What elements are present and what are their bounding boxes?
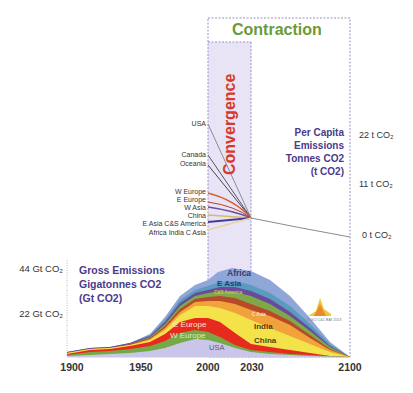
x-tick-2000: 2000 <box>196 361 219 373</box>
x-tick-2100: 2100 <box>338 361 361 373</box>
area-label-c-asia: C Asia <box>252 312 266 317</box>
right-axis-11: 11 t CO₂ <box>359 179 393 189</box>
right-axis-22: 22 t CO₂ <box>359 130 394 140</box>
area-label-usa: USA <box>209 343 224 352</box>
left-axis-22: 22 Gt CO₂ <box>5 308 63 319</box>
x-tick-1950: 1950 <box>129 361 152 373</box>
per-capita-title: Per Capita Emissions Tonnes CO2 (t CO2) <box>280 126 344 178</box>
left-axis-44: 44 Gt CO₂ <box>5 263 63 274</box>
right-axis-0: 0 t CO₂ <box>362 230 392 240</box>
area-label-w-europe: W Europe <box>170 331 206 340</box>
area-label-e-europe: E Europe <box>173 320 206 329</box>
area-label-china: China <box>254 336 276 345</box>
area-label-india: India <box>254 322 273 331</box>
country-label-china: China <box>86 212 206 219</box>
country-label-e-europe: E Europe <box>86 196 206 203</box>
contraction-title: Contraction <box>232 21 322 39</box>
country-label-africa-india-c-asia: Africa India C Asia <box>86 229 206 236</box>
country-label-canada: Canada <box>86 151 206 158</box>
x-tick-2030: 2030 <box>240 361 263 373</box>
cc-chart: Contraction Convergence Per Capita Emiss… <box>0 0 413 393</box>
country-label-w-europe: W Europe <box>86 188 206 195</box>
country-label-e-asia-cs-america: E Asia C&S America <box>86 220 206 227</box>
x-tick-1900: 1900 <box>60 361 83 373</box>
gross-emissions-title: Gross Emissions Gigatonnes CO2 (Gt CO2) <box>79 263 165 305</box>
area-label-cs-america: C&S America <box>214 290 242 295</box>
country-label-oceania: Oceania <box>86 160 206 167</box>
gci-logo <box>308 298 331 316</box>
chart-graphics <box>0 0 413 393</box>
country-label-w-asia: W Asia <box>86 204 206 211</box>
country-label-usa: USA <box>86 120 206 127</box>
convergence-title: Convergence <box>221 74 239 175</box>
area-label-africa: Africa <box>227 268 251 278</box>
area-label-e-asia: E Asia <box>217 279 241 288</box>
logo-text: © GCI C&C BAT 2013 <box>307 318 341 322</box>
